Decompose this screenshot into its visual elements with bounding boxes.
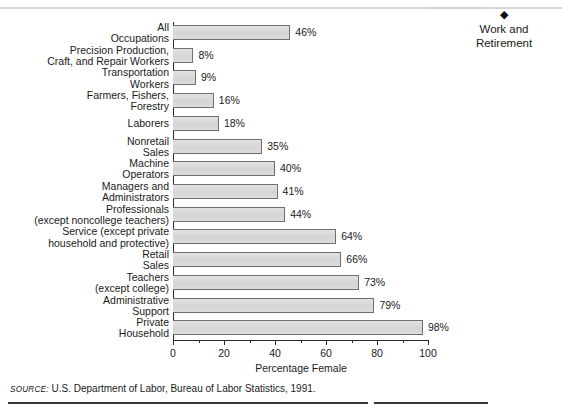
category-label: Laborers — [0, 118, 169, 129]
category-label-line: Household — [0, 328, 169, 339]
category-label-line: Forestry — [0, 101, 169, 112]
bar-value-label: 44% — [290, 208, 311, 221]
category-label-line: Workers — [0, 79, 169, 90]
bar — [173, 25, 290, 40]
category-label-line: Service (except private — [0, 226, 169, 237]
bar-value-label: 35% — [267, 140, 288, 153]
x-tick-major — [275, 340, 276, 345]
bar-row: AdministrativeSupport79% — [173, 296, 428, 317]
footer-rule-left — [8, 402, 368, 404]
margin-callout: ◆ Work and Retirement — [452, 8, 556, 50]
category-label: PrivateHousehold — [0, 317, 169, 339]
x-tick-major — [224, 340, 225, 345]
bar-value-label: 66% — [346, 253, 367, 266]
category-label-line: (except college) — [0, 283, 169, 294]
category-label: Service (except privatehousehold and pro… — [0, 226, 169, 248]
x-tick-major — [428, 340, 429, 345]
margin-callout-label-line1: Work and — [452, 23, 556, 37]
bar-value-label: 46% — [295, 26, 316, 39]
category-label: Managers andAdministrators — [0, 181, 169, 203]
bar-row: Laborers18% — [173, 114, 428, 135]
x-tick-label: 100 — [419, 347, 437, 359]
category-label-line: household and protective) — [0, 238, 169, 249]
bar — [173, 48, 193, 63]
bar-value-label: 9% — [201, 71, 216, 84]
source-prefix: SOURCE: — [10, 385, 49, 394]
bar-value-label: 18% — [224, 117, 245, 130]
category-label-line: Operators — [0, 169, 169, 180]
source-note: SOURCE: U.S. Department of Labor, Bureau… — [10, 382, 316, 396]
bar — [173, 139, 262, 154]
category-label: AdministrativeSupport — [0, 295, 169, 317]
x-tick-minor — [301, 340, 302, 343]
x-tick-minor — [250, 340, 251, 343]
bar-value-label: 73% — [364, 276, 385, 289]
x-tick-minor — [403, 340, 404, 343]
footer-rule-right — [374, 402, 488, 404]
bar — [173, 298, 374, 313]
category-label-line: Craft, and Repair Workers — [0, 56, 169, 67]
category-label-line: (except noncollege teachers) — [0, 215, 169, 226]
category-label: Precision Production,Craft, and Repair W… — [0, 45, 169, 67]
bar-row: MachineOperators40% — [173, 159, 428, 180]
bar-row: Professionals(except noncollege teachers… — [173, 205, 428, 226]
x-tick-minor — [352, 340, 353, 343]
x-tick-major — [326, 340, 327, 345]
x-tick-minor — [199, 340, 200, 343]
bar-value-label: 16% — [219, 94, 240, 107]
source-text: U.S. Department of Labor, Bureau of Labo… — [52, 383, 316, 394]
bar-row: Farmers, Fishers,Forestry16% — [173, 91, 428, 112]
category-label: Professionals(except noncollege teachers… — [0, 204, 169, 226]
x-axis-title: Percentage Female — [173, 362, 429, 374]
bar — [173, 184, 278, 199]
plot-area: AllOccupations46%Precision Production,Cr… — [173, 22, 428, 340]
bar — [173, 275, 359, 290]
category-label-line: Sales — [0, 147, 169, 158]
bar-row: NonretailSales35% — [173, 137, 428, 158]
bar-row: Service (except privatehousehold and pro… — [173, 227, 428, 248]
bar-value-label: 8% — [198, 49, 213, 62]
bar — [173, 70, 196, 85]
bar-value-label: 79% — [379, 299, 400, 312]
bar-row: Teachers(except college)73% — [173, 273, 428, 294]
category-label: MachineOperators — [0, 158, 169, 180]
bar-row: Managers andAdministrators41% — [173, 182, 428, 203]
category-label-line: Administrators — [0, 192, 169, 203]
bar-row: RetailSales66% — [173, 250, 428, 271]
bar-row: PrivateHousehold98% — [173, 318, 428, 339]
bar — [173, 207, 285, 222]
category-label: TransportationWorkers — [0, 67, 169, 89]
x-tick-label: 80 — [371, 347, 383, 359]
category-label: Teachers(except college) — [0, 272, 169, 294]
diamond-icon: ◆ — [452, 8, 556, 20]
category-label-line: Support — [0, 306, 169, 317]
bar — [173, 229, 336, 244]
category-label-line: Laborers — [0, 118, 169, 129]
category-label-line: Sales — [0, 260, 169, 271]
category-label: AllOccupations — [0, 22, 169, 44]
margin-callout-label-line2: Retirement — [452, 37, 556, 51]
category-label-line: Occupations — [0, 33, 169, 44]
bar-chart: AllOccupations46%Precision Production,Cr… — [0, 14, 452, 366]
bar-row: Precision Production,Craft, and Repair W… — [173, 46, 428, 67]
bar — [173, 161, 275, 176]
x-tick-major — [377, 340, 378, 345]
bar — [173, 116, 219, 131]
category-label-line: Transportation — [0, 67, 169, 78]
bar-value-label: 40% — [280, 162, 301, 175]
bar-row: TransportationWorkers9% — [173, 68, 428, 89]
margin-callout-label: Work and Retirement — [452, 23, 556, 50]
x-tick-label: 0 — [170, 347, 176, 359]
x-tick-label: 40 — [269, 347, 281, 359]
bar — [173, 93, 214, 108]
bar-row: AllOccupations46% — [173, 23, 428, 44]
bar-value-label: 64% — [341, 230, 362, 243]
category-label: Farmers, Fishers,Forestry — [0, 90, 169, 112]
bar — [173, 252, 341, 267]
category-label: RetailSales — [0, 249, 169, 271]
category-label: NonretailSales — [0, 136, 169, 158]
bar-value-label: 41% — [283, 185, 304, 198]
bar — [173, 320, 423, 335]
x-tick-label: 20 — [218, 347, 230, 359]
x-tick-major — [173, 340, 174, 345]
